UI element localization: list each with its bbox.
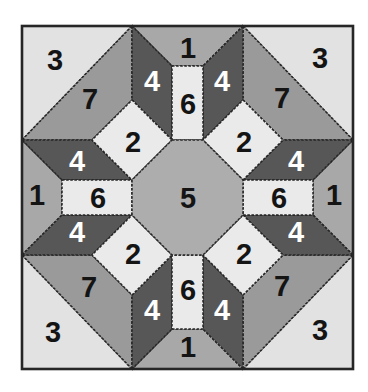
- label-corner-bottom-right: 3: [312, 314, 328, 346]
- quilt-block-diagram: 3 3 3 3 7 7 7 7 1 1 1 1 4 4 4 4 4 4 4 4 …: [0, 0, 368, 392]
- label-band-bottom-right: 7: [274, 270, 290, 302]
- label-wedge-right-upper: 4: [288, 145, 304, 177]
- label-edge-left: 1: [29, 179, 45, 211]
- label-wedge-right-lower: 4: [288, 216, 304, 248]
- label-wedge-top-right: 4: [214, 65, 230, 97]
- label-wedge-left-lower: 4: [69, 216, 85, 248]
- label-band-top-right: 7: [274, 82, 290, 114]
- label-bar-right: 6: [271, 182, 287, 214]
- quilt-block-svg: 3 3 3 3 7 7 7 7 1 1 1 1 4 4 4 4 4 4 4 4 …: [0, 0, 368, 392]
- label-wedge-left-upper: 4: [69, 145, 85, 177]
- label-edge-top: 1: [180, 32, 196, 64]
- label-wedge-top-left: 4: [144, 65, 160, 97]
- label-corner-top-right: 3: [312, 42, 328, 74]
- label-diamond-top-left: 2: [125, 126, 141, 158]
- label-diamond-top-right: 2: [236, 126, 252, 158]
- label-edge-right: 1: [326, 179, 342, 211]
- label-corner-top-left: 3: [47, 44, 63, 76]
- label-band-top-left: 7: [82, 83, 98, 115]
- label-diamond-bottom-right: 2: [236, 238, 252, 270]
- label-center-octagon: 5: [180, 182, 196, 214]
- label-diamond-bottom-left: 2: [125, 238, 141, 270]
- label-wedge-bottom-left: 4: [144, 294, 160, 326]
- label-edge-bottom: 1: [180, 331, 196, 363]
- label-bar-top: 6: [180, 88, 196, 120]
- label-bar-bottom: 6: [180, 274, 196, 306]
- label-bar-left: 6: [90, 182, 106, 214]
- label-corner-bottom-left: 3: [45, 316, 61, 348]
- label-band-bottom-left: 7: [81, 271, 97, 303]
- label-wedge-bottom-right: 4: [214, 294, 230, 326]
